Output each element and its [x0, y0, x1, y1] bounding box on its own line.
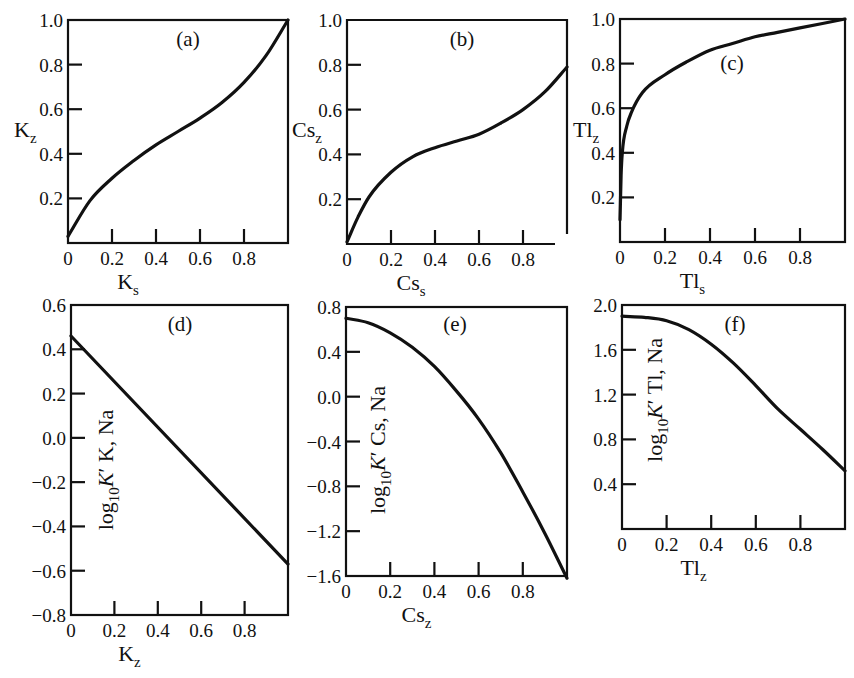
- x-axis: 00.20.40.60.8: [617, 515, 812, 555]
- x-tick-label: 0.8: [789, 534, 813, 555]
- x-axis-label: Ks: [117, 269, 139, 298]
- figure: 00.20.40.60.8Ks0.20.40.60.81.0Kz(a)00.20…: [0, 0, 854, 678]
- y-tick-label: 0.6: [39, 99, 63, 120]
- x-tick-label: 0.6: [744, 534, 768, 555]
- y-axis: 0.20.40.60.81.0: [591, 9, 634, 208]
- x-tick-label: 0: [342, 249, 352, 270]
- y-tick-label: 0.8: [593, 429, 617, 450]
- y-tick-label: 0.8: [317, 297, 341, 318]
- y-tick-label: −0.6: [32, 561, 66, 582]
- x-axis: 00.20.40.60.8: [66, 601, 256, 641]
- x-tick-label: 0.8: [511, 249, 535, 270]
- x-tick-label: 0.2: [378, 581, 402, 602]
- x-tick-label: 0.6: [467, 581, 491, 602]
- y-tick-label: 1.0: [591, 9, 615, 30]
- x-axis: 00.20.40.60.8: [615, 228, 812, 268]
- x-axis-label: Css: [396, 270, 425, 299]
- panel-label: (e): [443, 312, 466, 336]
- y-tick-label: 0.6: [42, 295, 66, 316]
- data-curve: [620, 19, 845, 220]
- y-tick-label: 0.2: [42, 384, 66, 405]
- x-axis-label: Kz: [118, 641, 141, 670]
- y-tick-label: −0.4: [32, 516, 67, 537]
- plot-frame: [347, 20, 567, 244]
- x-tick-label: 0: [63, 248, 73, 269]
- y-tick-label: 0.2: [591, 187, 615, 208]
- panel-label: (c): [720, 51, 743, 75]
- x-tick-label: 0.2: [100, 248, 124, 269]
- x-tick-label: 0.6: [743, 247, 767, 268]
- panel-label: (b): [450, 27, 475, 51]
- x-tick-label: 0.8: [511, 581, 535, 602]
- panel-d: 00.20.40.60.8Kz−0.8−0.6−0.4−0.20.00.20.4…: [32, 295, 288, 670]
- y-tick-label: 0.2: [39, 188, 63, 209]
- y-axis: 0.20.40.60.81.0: [318, 10, 361, 210]
- y-tick-label: 1.0: [39, 10, 63, 31]
- x-tick-label: 0: [66, 620, 76, 641]
- y-tick-label: 0.6: [318, 100, 342, 121]
- y-tick-label: 0.8: [318, 55, 342, 76]
- x-tick-label: 0.4: [423, 581, 447, 602]
- y-tick-label: 1.0: [318, 10, 342, 31]
- x-tick-label: 0.4: [698, 247, 722, 268]
- y-tick-label: 1.2: [593, 385, 617, 406]
- y-axis-label: Csz: [292, 117, 322, 146]
- x-tick-label: 0.2: [655, 534, 679, 555]
- panel-label: (f): [725, 312, 746, 336]
- y-tick-label: 0.4: [317, 342, 341, 363]
- y-axis-label: log10K′ Cs, Na: [365, 386, 394, 514]
- data-curve: [347, 67, 567, 242]
- x-tick-label: 0.8: [788, 247, 812, 268]
- y-tick-label: 0.4: [318, 144, 342, 165]
- y-axis-label: log10K′ K, Na: [93, 409, 122, 530]
- x-tick-label: 0.6: [188, 248, 212, 269]
- y-axis-label: log10K′ Tl, Na: [642, 338, 671, 462]
- y-tick-label: −0.8: [307, 476, 341, 497]
- panel-e: 00.20.40.60.8Csz−1.6−1.2−0.8−0.40.00.40.…: [307, 297, 567, 631]
- y-axis: 0.40.81.21.62.0: [593, 295, 636, 495]
- y-tick-label: 0.4: [39, 144, 63, 165]
- x-tick-label: 0.6: [189, 620, 213, 641]
- x-axis: 00.20.40.60.8: [63, 229, 256, 269]
- y-tick-label: 0.4: [593, 474, 617, 495]
- y-tick-label: 2.0: [593, 295, 617, 316]
- y-tick-label: 0.8: [39, 55, 63, 76]
- x-tick-label: 0.4: [144, 248, 168, 269]
- y-tick-label: 0.0: [42, 428, 66, 449]
- panel-label: (d): [168, 312, 193, 336]
- x-tick-label: 0.4: [146, 620, 170, 641]
- y-tick-label: −0.8: [32, 605, 66, 626]
- x-tick-label: 0.6: [467, 249, 491, 270]
- x-tick-label: 0.4: [699, 534, 723, 555]
- panel-f: 00.20.40.60.8Tlz0.40.81.21.62.0log10K′ T…: [593, 295, 845, 584]
- x-tick-label: 0: [615, 247, 625, 268]
- x-tick-label: 0.4: [423, 249, 447, 270]
- panel-c: 00.20.40.60.8Tls0.20.40.60.81.0Tlz(c): [573, 9, 845, 297]
- y-tick-label: −0.4: [307, 432, 342, 453]
- y-tick-label: 0.2: [318, 189, 342, 210]
- y-tick-label: 0.0: [317, 387, 341, 408]
- y-tick-label: −0.2: [32, 472, 66, 493]
- x-axis-label: Tls: [680, 268, 706, 297]
- x-tick-label: 0: [617, 534, 627, 555]
- y-axis: −1.6−1.2−0.8−0.40.00.40.8: [307, 297, 360, 587]
- y-axis-label: Tlz: [573, 117, 600, 146]
- y-tick-label: −1.2: [307, 521, 341, 542]
- x-tick-label: 0.2: [653, 247, 677, 268]
- y-tick-label: −1.6: [307, 566, 341, 587]
- x-axis-label: Tlz: [680, 555, 707, 584]
- y-axis: −0.8−0.6−0.4−0.20.00.20.40.6: [32, 295, 85, 626]
- panel-a: 00.20.40.60.8Ks0.20.40.60.81.0Kz(a): [14, 10, 288, 298]
- x-tick-label: 0: [341, 581, 351, 602]
- x-axis: 00.20.40.60.8: [342, 230, 535, 270]
- x-tick-label: 0.2: [103, 620, 127, 641]
- y-axis: 0.20.40.60.81.0: [39, 10, 82, 209]
- y-axis-label: Kz: [14, 117, 37, 146]
- y-tick-label: 0.8: [591, 54, 615, 75]
- y-tick-label: 1.6: [593, 340, 617, 361]
- data-curve: [68, 20, 288, 236]
- x-tick-label: 0.8: [232, 248, 256, 269]
- panel-label: (a): [176, 27, 199, 51]
- x-tick-label: 0.2: [379, 249, 403, 270]
- x-axis: 00.20.40.60.8: [341, 562, 534, 602]
